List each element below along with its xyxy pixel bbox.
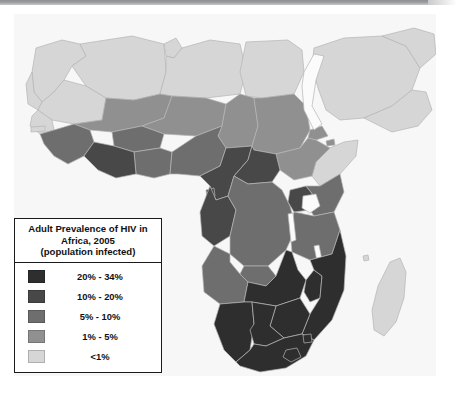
figure-page: .lt1 { fill:#d6d6d6; } .p1to5 { fill:#90… [0, 0, 457, 393]
region-comoros [363, 255, 369, 261]
region-gambia [31, 126, 45, 132]
legend-swatch-20-34 [28, 270, 45, 283]
legend-title-line-3: (population infected) [19, 246, 157, 258]
legend-swatch-lt-1 [28, 350, 45, 363]
legend-item: 10% - 20% [15, 287, 161, 307]
top-divider-bar-fade [428, 0, 457, 5]
legend-swatch-1-5 [28, 330, 45, 343]
region-egypt [240, 40, 304, 98]
legend-title-line-2: Africa, 2005 [19, 235, 157, 247]
legend-item: 20% - 34% [15, 267, 161, 287]
legend-label-20-34: 20% - 34% [45, 271, 161, 282]
legend-label-1-5: 1% - 5% [45, 331, 161, 342]
legend-title-line-1: Adult Prevalence of HIV in [19, 223, 157, 235]
region-sudan [252, 94, 310, 154]
legend-item: 1% - 5% [15, 327, 161, 347]
legend-swatch-10-20 [28, 290, 45, 303]
legend-swatch-5-10 [28, 310, 45, 323]
legend-label-10-20: 10% - 20% [45, 291, 161, 302]
region-swaziland [303, 334, 312, 343]
legend-items: 20% - 34% 10% - 20% 5% - 10% 1% - 5% <1% [15, 263, 161, 372]
legend-label-lt-1: <1% [45, 351, 161, 362]
legend-label-5-10: 5% - 10% [45, 311, 161, 322]
top-divider-bar [0, 0, 428, 5]
legend-item: <1% [15, 347, 161, 367]
map-legend: Adult Prevalence of HIV in Africa, 2005 … [14, 218, 162, 373]
region-ghana-togo-benin [134, 148, 172, 178]
legend-item: 5% - 10% [15, 307, 161, 327]
legend-title: Adult Prevalence of HIV in Africa, 2005 … [15, 219, 161, 263]
